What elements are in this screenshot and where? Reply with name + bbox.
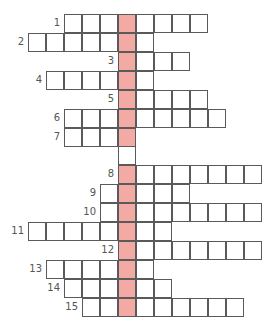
answer-cell[interactable] [136,203,154,222]
answer-cell[interactable] [100,279,118,298]
answer-cell[interactable] [118,90,136,109]
answer-cell[interactable] [46,71,64,90]
answer-cell[interactable] [172,184,190,203]
answer-cell[interactable] [28,222,46,241]
answer-cell[interactable] [118,52,136,71]
answer-cell[interactable] [172,165,190,184]
answer-cell[interactable] [64,279,82,298]
answer-cell[interactable] [136,298,154,317]
answer-cell[interactable] [82,222,100,241]
answer-cell[interactable] [82,298,100,317]
answer-cell[interactable] [100,33,118,52]
answer-cell[interactable] [190,298,208,317]
answer-cell[interactable] [82,14,100,33]
answer-cell[interactable] [64,128,82,147]
answer-cell[interactable] [172,298,190,317]
answer-cell[interactable] [190,14,208,33]
answer-cell[interactable] [208,165,226,184]
answer-cell[interactable] [136,260,154,279]
answer-cell[interactable] [82,260,100,279]
answer-cell[interactable] [190,241,208,260]
answer-cell[interactable] [136,279,154,298]
answer-cell[interactable] [118,260,136,279]
answer-cell[interactable] [100,109,118,128]
answer-cell[interactable] [82,279,100,298]
answer-cell[interactable] [82,33,100,52]
answer-cell[interactable] [226,241,244,260]
answer-cell[interactable] [136,165,154,184]
answer-cell[interactable] [154,279,172,298]
answer-cell[interactable] [190,109,208,128]
answer-cell[interactable] [136,52,154,71]
answer-cell[interactable] [64,260,82,279]
answer-cell[interactable] [154,203,172,222]
answer-cell[interactable] [64,71,82,90]
answer-cell[interactable] [190,165,208,184]
answer-cell[interactable] [136,33,154,52]
answer-cell[interactable] [100,222,118,241]
answer-cell[interactable] [244,241,262,260]
answer-cell[interactable] [154,14,172,33]
answer-cell[interactable] [64,14,82,33]
answer-cell[interactable] [136,184,154,203]
answer-cell[interactable] [154,298,172,317]
answer-cell[interactable] [172,90,190,109]
answer-cell[interactable] [82,109,100,128]
answer-cell[interactable] [100,184,118,203]
answer-cell[interactable] [64,222,82,241]
answer-cell[interactable] [208,298,226,317]
answer-cell[interactable] [118,71,136,90]
answer-cell[interactable] [28,33,46,52]
answer-cell[interactable] [154,109,172,128]
answer-cell[interactable] [172,241,190,260]
answer-cell[interactable] [154,90,172,109]
answer-cell[interactable] [46,33,64,52]
answer-cell[interactable] [226,298,244,317]
answer-cell[interactable] [118,241,136,260]
answer-cell[interactable] [118,33,136,52]
answer-cell[interactable] [64,109,82,128]
answer-cell[interactable] [100,128,118,147]
answer-cell[interactable] [172,52,190,71]
answer-cell[interactable] [100,14,118,33]
answer-cell[interactable] [172,203,190,222]
answer-cell[interactable] [208,241,226,260]
answer-cell[interactable] [136,71,154,90]
answer-cell[interactable] [136,241,154,260]
answer-cell[interactable] [154,222,172,241]
answer-cell[interactable] [118,109,136,128]
answer-cell[interactable] [100,260,118,279]
answer-cell[interactable] [64,33,82,52]
answer-cell[interactable] [172,14,190,33]
answer-cell[interactable] [190,90,208,109]
answer-cell[interactable] [244,165,262,184]
answer-cell[interactable] [154,52,172,71]
answer-cell[interactable] [244,203,262,222]
answer-cell[interactable] [118,279,136,298]
answer-cell[interactable] [118,14,136,33]
answer-cell[interactable] [136,14,154,33]
answer-cell[interactable] [136,90,154,109]
answer-cell[interactable] [118,222,136,241]
answer-cell[interactable] [154,165,172,184]
answer-cell[interactable] [136,109,154,128]
answer-cell[interactable] [154,241,172,260]
blank-cell[interactable] [118,146,136,165]
answer-cell[interactable] [82,128,100,147]
answer-cell[interactable] [82,71,100,90]
answer-cell[interactable] [136,222,154,241]
answer-cell[interactable] [46,222,64,241]
answer-cell[interactable] [118,184,136,203]
answer-cell[interactable] [118,128,136,147]
answer-cell[interactable] [46,260,64,279]
answer-cell[interactable] [154,184,172,203]
answer-cell[interactable] [100,203,118,222]
answer-cell[interactable] [190,203,208,222]
answer-cell[interactable] [226,165,244,184]
answer-cell[interactable] [226,203,244,222]
answer-cell[interactable] [172,109,190,128]
answer-cell[interactable] [100,298,118,317]
answer-cell[interactable] [208,203,226,222]
answer-cell[interactable] [100,71,118,90]
answer-cell[interactable] [118,203,136,222]
